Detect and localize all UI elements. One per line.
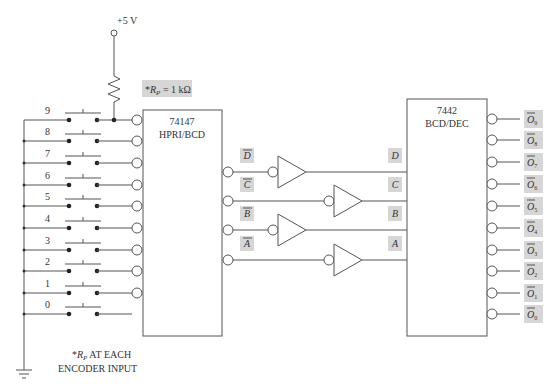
decoder-output-1: O1: [487, 284, 543, 302]
decoder-output-5: O5: [487, 197, 543, 215]
pushbutton-switch[interactable]: [65, 217, 101, 230]
active-low-input-bubble: [132, 180, 142, 190]
switch-label: 1: [45, 278, 50, 289]
pushbutton-switch[interactable]: [65, 109, 101, 122]
decoder-input-label: B: [392, 208, 398, 219]
decoder-output-6: O6: [487, 175, 543, 193]
note-line-2: ENCODER INPUT: [58, 363, 137, 374]
decoder-part: 7442: [437, 105, 457, 116]
switch-row-3: 3: [23, 235, 143, 255]
decoder-output-8: O8: [487, 131, 543, 149]
switch-label: 2: [45, 256, 50, 267]
decoder-outputs: O9O8O7O6O5O4O3O2O1O0: [487, 110, 543, 323]
decoder-function: BCD/DEC: [425, 118, 469, 129]
switch-row-1: 1: [23, 278, 143, 298]
inverter-array: DDCCBBAA: [223, 148, 407, 276]
switch-row-6: 6: [23, 170, 143, 190]
encoder-output-label: A: [243, 238, 251, 249]
switch-row-2: 2: [23, 256, 143, 276]
active-low-input-bubble: [132, 201, 142, 211]
active-low-input-bubble: [132, 288, 142, 298]
active-low-input-bubble: [132, 223, 142, 233]
switch-row-7: 7: [23, 148, 143, 168]
ground-icon: [16, 370, 32, 378]
switch-label: 8: [45, 126, 50, 137]
switch-label: 3: [45, 235, 50, 246]
switch-label: 9: [45, 105, 50, 116]
encoder-output-label: C: [244, 179, 251, 190]
circuit-diagram: +5 V *RP = 1 kΩ 9876543210 74147 HPRI/BC…: [0, 0, 560, 389]
decoder-output-7: O7: [487, 153, 543, 171]
active-low-input-bubble: [132, 158, 142, 168]
pushbutton-switch[interactable]: [65, 239, 101, 252]
active-low-input-bubble: [132, 266, 142, 276]
decoder-output-0: O0: [487, 305, 543, 323]
decoder-input-label: D: [390, 150, 399, 161]
encoder-output-label: B: [244, 208, 250, 219]
switch-label: 6: [45, 170, 50, 181]
supply-terminal: [111, 30, 117, 36]
pullup-resistor: [108, 76, 120, 102]
switch-row-4: 4: [23, 213, 143, 233]
pushbutton-switch[interactable]: [65, 195, 101, 208]
supply-label: +5 V: [117, 15, 138, 26]
pushbutton-switch[interactable]: [65, 260, 101, 273]
switch-label: 0: [45, 299, 50, 310]
note-line-1: *RP AT EACH: [72, 349, 131, 362]
decoder-chip: [407, 99, 487, 336]
switch-label: 5: [45, 191, 50, 202]
pushbutton-switch[interactable]: [65, 130, 101, 143]
decoder-input-label: C: [392, 179, 399, 190]
decoder-output-9: O9: [487, 110, 543, 128]
switch-row-5: 5: [23, 191, 143, 211]
switch-row-8: 8: [23, 126, 143, 146]
switch-row-0: 0: [23, 299, 133, 316]
active-low-input-bubble: [132, 136, 142, 146]
inverter-A: AA: [223, 236, 407, 276]
decoder-output-2: O2: [487, 262, 543, 280]
switch-row-9: 9: [24, 105, 142, 125]
encoder-part: 74147: [170, 116, 195, 127]
pushbutton-switch[interactable]: [65, 174, 101, 187]
decoder-output-3: O3: [487, 241, 543, 259]
decoder-input-label: A: [391, 238, 399, 249]
decoder-output-4: O4: [487, 219, 543, 237]
switch-array: 9876543210: [23, 105, 143, 316]
encoder-chip: [143, 110, 222, 336]
switch-label: 7: [45, 148, 50, 159]
encoder-function: HPRI/BCD: [159, 129, 205, 140]
active-low-input-bubble: [132, 115, 142, 125]
pushbutton-switch[interactable]: [65, 303, 101, 316]
active-low-input-bubble: [132, 245, 142, 255]
pushbutton-switch[interactable]: [65, 282, 101, 295]
switch-label: 4: [45, 213, 50, 224]
pushbutton-switch[interactable]: [65, 152, 101, 165]
encoder-output-label: D: [242, 150, 251, 161]
